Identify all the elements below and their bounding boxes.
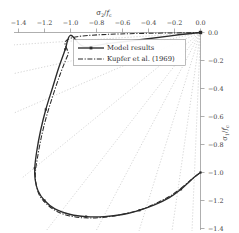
data-point-marker [180, 188, 182, 190]
y-tick-label: 0.0 [208, 29, 218, 37]
data-point-marker [34, 167, 36, 169]
x-axis: −1.4 −1.2 −1.0 −0.8 −0.6 −0.4 −0.2 0.0 σ… [11, 9, 206, 33]
x-tick-label: −0.8 [89, 19, 105, 27]
y-tick-label: −0.6 [208, 113, 224, 121]
x-tick-label: −0.6 [115, 19, 131, 27]
y-tick-label: −1.2 [208, 197, 224, 205]
x-tick-label: 0.0 [195, 19, 205, 27]
y-axis-title: σ1/fc [221, 125, 230, 141]
data-point-marker [138, 209, 140, 211]
biaxial-failure-envelope-figure: −1.4 −1.2 −1.0 −0.8 −0.6 −0.4 −0.2 0.0 σ… [0, 0, 239, 233]
legend-label-kupfer: Kupfer et al. (1969) [107, 55, 175, 63]
data-point-marker [85, 216, 87, 218]
x-tick-label: −0.2 [167, 19, 183, 27]
x-tick-label: −1.0 [63, 19, 79, 27]
data-point-marker [64, 48, 66, 50]
svg-text:σ1/fc: σ1/fc [221, 125, 230, 141]
x-tick-label: −1.4 [11, 19, 27, 27]
origin-marker [199, 31, 202, 34]
x-axis-title: σ2/fc [96, 9, 112, 18]
chart-canvas: −1.4 −1.2 −1.0 −0.8 −0.6 −0.4 −0.2 0.0 σ… [0, 0, 239, 233]
y-tick-label: −0.2 [208, 57, 224, 65]
y-axis-title-denom-sub: c [225, 125, 230, 128]
x-tick-label: −0.4 [141, 19, 157, 27]
data-point-marker [199, 171, 201, 173]
x-axis-title-denom-sub: c [109, 13, 112, 18]
legend-label-model: Model results [107, 44, 155, 52]
svg-text:σ2/fc: σ2/fc [96, 9, 112, 18]
data-point-marker [43, 199, 45, 201]
y-tick-label: −1.0 [208, 169, 224, 177]
y-tick-label: −0.4 [208, 85, 224, 93]
x-tick-label: −1.2 [37, 19, 53, 27]
y-tick-label: −0.8 [208, 141, 224, 149]
legend-marker-model [90, 47, 93, 50]
y-axis: 0.0 −0.2 −0.4 −0.6 −0.8 −1.0 −1.2 −1.4 σ… [201, 29, 230, 233]
data-point-marker [45, 108, 47, 110]
y-tick-label: −1.4 [208, 225, 224, 233]
legend: Model results Kupfer et al. (1969) [74, 40, 186, 66]
